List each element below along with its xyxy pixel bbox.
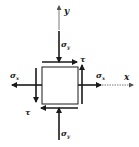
sigma-y-bottom-label: σy bbox=[61, 128, 71, 140]
diagram-svg: y x σy σy σx σx τ τ bbox=[0, 0, 139, 147]
stress-element-square bbox=[42, 67, 78, 104]
stress-element-diagram: y x σy σy σx σx τ τ bbox=[0, 0, 139, 147]
sigma-x-right-label: σx bbox=[96, 70, 106, 81]
sigma-y-top-label: σy bbox=[61, 39, 71, 51]
sigma-x-left-label: σx bbox=[10, 70, 20, 81]
x-axis-label: x bbox=[123, 72, 130, 82]
tau-right-label: τ bbox=[80, 54, 86, 64]
y-axis-label: y bbox=[63, 6, 70, 16]
tau-left-label: τ bbox=[25, 107, 31, 117]
